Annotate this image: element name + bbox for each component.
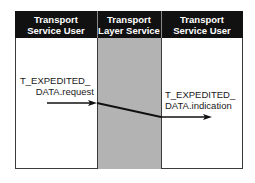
- indication-arrow-icon: [161, 114, 212, 120]
- request-arrow-icon: [47, 100, 97, 106]
- primitive-flow-arrows: [0, 0, 255, 183]
- transit-line: [97, 103, 161, 117]
